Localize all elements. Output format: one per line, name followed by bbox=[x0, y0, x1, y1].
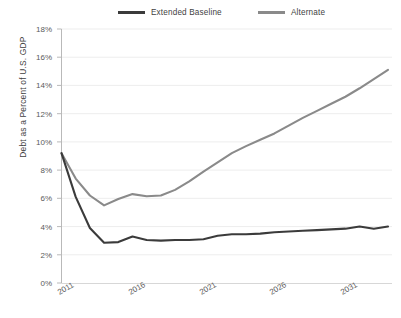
x-axis-tick-labels: 20112016202120262031 bbox=[0, 0, 401, 318]
x-axis-tick-label: 2021 bbox=[198, 280, 218, 297]
x-axis-tick-label: 2031 bbox=[339, 280, 359, 297]
x-axis-tick-label: 2011 bbox=[56, 280, 75, 296]
x-axis-tick-label: 2016 bbox=[127, 280, 147, 297]
debt-gdp-line-chart: Extended Baseline Alternate Debt as a Pe… bbox=[0, 0, 401, 318]
x-axis-tick-label: 2026 bbox=[268, 280, 288, 297]
